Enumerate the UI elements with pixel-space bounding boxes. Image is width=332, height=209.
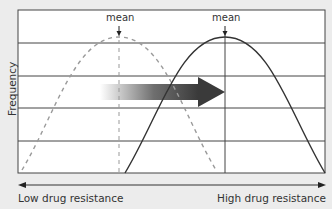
- mean-label-before: mean: [106, 12, 134, 23]
- mean-label-after: mean: [212, 12, 240, 23]
- x-axis-right-label: High drug resistance: [217, 192, 326, 204]
- x-axis-left-label: Low drug resistance: [18, 192, 124, 204]
- y-axis-label: Frequency: [6, 64, 18, 116]
- x-axis-arrow: [18, 182, 326, 188]
- distribution-diagram: [0, 0, 332, 209]
